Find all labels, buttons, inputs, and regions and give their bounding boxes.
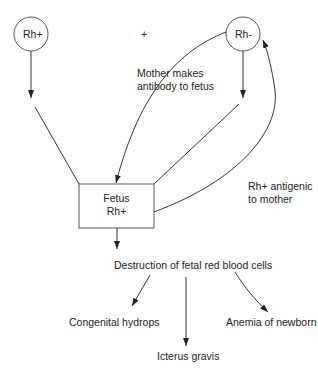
hydrops-arrow <box>132 275 150 306</box>
consequence-hydrops: Congenital hydrops <box>69 316 159 329</box>
consequence-anemia: Anemia of newborn <box>226 316 316 329</box>
antibody-arrow <box>116 32 226 183</box>
antigenic-label-line2: to mother <box>248 193 292 206</box>
anemia-arrow <box>235 272 268 312</box>
antibody-label-line1: Mother makes <box>137 67 204 80</box>
antigenic-label-line1: Rh+ antigenic <box>248 180 313 193</box>
antibody-label-line2: antibody to fetus <box>137 80 214 93</box>
fetus-label-line2: Rh+ <box>79 205 154 218</box>
mother-label: Rh- <box>235 28 252 41</box>
father-label: Rh+ <box>23 28 43 41</box>
mother-to-fetus-line <box>154 104 239 184</box>
plus-sign: + <box>141 28 147 41</box>
outcome-label: Destruction of fetal red blood cells <box>114 259 272 272</box>
consequence-icterus: Icterus gravis <box>157 350 219 363</box>
fetus-label-line1: Fetus <box>79 192 154 205</box>
father-to-fetus-line <box>35 107 79 184</box>
